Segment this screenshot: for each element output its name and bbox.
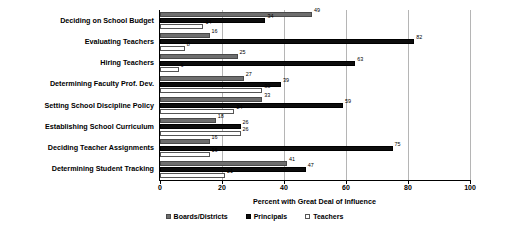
bar-value-label: 8 <box>187 42 190 47</box>
bar-value-label: 26 <box>243 120 249 125</box>
bar-value-label: 16 <box>212 148 218 153</box>
x-tick-label: 80 <box>404 184 412 191</box>
bar-value-label: 6 <box>181 63 184 68</box>
chart-legend: Boards/DistrictsPrincipalsTeachers <box>0 213 509 220</box>
category-group: Deciding on School Budget493414 <box>0 10 509 31</box>
bar-boards-districts[interactable] <box>160 12 312 17</box>
category-label: Setting School Discipline Policy <box>0 102 154 110</box>
x-tick-label: 20 <box>218 184 226 191</box>
bar-boards-districts[interactable] <box>160 97 262 102</box>
bar-boards-districts[interactable] <box>160 161 287 166</box>
bar-value-label: 34 <box>267 14 273 19</box>
x-tick-label: 100 <box>464 184 476 191</box>
category-label: Deciding Teacher Assignments <box>0 144 154 152</box>
bar-boards-districts[interactable] <box>160 54 238 59</box>
bar-value-label: 75 <box>395 142 401 147</box>
bar-value-label: 82 <box>416 35 422 40</box>
bar-value-label: 33 <box>264 93 270 98</box>
bar-value-label: 14 <box>205 20 211 25</box>
legend-swatch-icon <box>166 214 171 219</box>
bar-teachers[interactable] <box>160 88 262 93</box>
bar-teachers[interactable] <box>160 24 203 29</box>
x-axis-title: Percent with Great Deal of Influence <box>159 197 470 206</box>
bar-teachers[interactable] <box>160 46 185 51</box>
category-group: Evaluating Teachers16828 <box>0 31 509 52</box>
category-label: Deciding on School Budget <box>0 17 154 25</box>
bar-teachers[interactable] <box>160 131 241 136</box>
bar-value-label: 59 <box>345 99 351 104</box>
bar-value-label: 39 <box>283 78 289 83</box>
bar-principals[interactable] <box>160 61 355 66</box>
legend-label: Boards/Districts <box>174 213 228 220</box>
legend-item[interactable]: Principals <box>246 213 287 220</box>
x-tick-label: 60 <box>342 184 350 191</box>
category-group: Deciding Teacher Assignments167516 <box>0 138 509 159</box>
bar-teachers[interactable] <box>160 67 179 72</box>
legend-item[interactable]: Boards/Districts <box>166 213 228 220</box>
category-label: Determining Faculty Prof. Dev. <box>0 80 154 88</box>
x-tick-label: 0 <box>158 184 162 191</box>
bar-principals[interactable] <box>160 103 343 108</box>
bar-value-label: 41 <box>289 157 295 162</box>
bar-value-label: 21 <box>227 169 233 174</box>
bar-value-label: 33 <box>264 84 270 89</box>
legend-item[interactable]: Teachers <box>305 213 343 220</box>
bar-principals[interactable] <box>160 124 241 129</box>
legend-swatch-icon <box>246 214 251 219</box>
bar-principals[interactable] <box>160 39 414 44</box>
category-label: Evaluating Teachers <box>0 38 154 46</box>
category-label: Establishing School Curriculum <box>0 123 154 131</box>
legend-label: Principals <box>254 213 287 220</box>
category-group: Hiring Teachers25636 <box>0 53 509 74</box>
bar-teachers[interactable] <box>160 152 210 157</box>
category-group: Determining Faculty Prof. Dev.273933 <box>0 74 509 95</box>
bar-boards-districts[interactable] <box>160 76 244 81</box>
x-axis-line <box>159 180 470 181</box>
bar-boards-districts[interactable] <box>160 118 216 123</box>
bar-chart: Deciding on School Budget493414Evaluatin… <box>0 0 509 238</box>
legend-label: Teachers <box>313 213 343 220</box>
bar-value-label: 27 <box>246 72 252 77</box>
bar-value-label: 24 <box>236 105 242 110</box>
bar-value-label: 26 <box>243 127 249 132</box>
bar-value-label: 49 <box>314 8 320 13</box>
category-label: Hiring Teachers <box>0 59 154 67</box>
bar-value-label: 47 <box>308 163 314 168</box>
legend-swatch-icon <box>305 214 310 219</box>
bar-value-label: 16 <box>212 135 218 140</box>
x-tick-label: 40 <box>280 184 288 191</box>
bar-value-label: 63 <box>357 57 363 62</box>
category-label: Determining Student Tracking <box>0 165 154 173</box>
bar-teachers[interactable] <box>160 173 225 178</box>
category-group: Setting School Discipline Policy335924 <box>0 95 509 116</box>
bar-principals[interactable] <box>160 18 265 23</box>
bar-principals[interactable] <box>160 82 281 87</box>
bar-value-label: 16 <box>212 29 218 34</box>
bar-value-label: 18 <box>218 114 224 119</box>
bar-boards-districts[interactable] <box>160 139 210 144</box>
bar-value-label: 25 <box>240 50 246 55</box>
bar-boards-districts[interactable] <box>160 33 210 38</box>
category-group: Establishing School Curriculum182626 <box>0 116 509 137</box>
category-group: Determining Student Tracking414721 <box>0 159 509 180</box>
bar-principals[interactable] <box>160 146 393 151</box>
